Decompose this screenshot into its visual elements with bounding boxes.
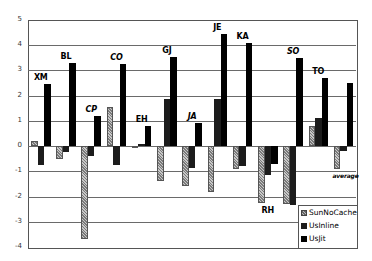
bar-usinline-co xyxy=(113,146,120,165)
y-tick-label: 0 xyxy=(6,141,22,149)
bar-usinline-so xyxy=(290,146,297,205)
y-tick-label: 1 xyxy=(6,116,22,124)
bar-usinline-bl xyxy=(63,146,70,152)
bar-usjit-xm xyxy=(44,84,51,146)
bar-usjit-cp xyxy=(94,116,101,146)
bar-sunnocache-je xyxy=(208,146,215,191)
y-tick-label: -1 xyxy=(6,166,22,174)
gridline xyxy=(28,70,356,71)
bar-usjit-gj xyxy=(170,57,177,147)
bar-sunnocache-co xyxy=(107,107,114,146)
bar-usjit-to xyxy=(322,78,329,146)
y-tick-label: -3 xyxy=(6,217,22,225)
swatch-usjit xyxy=(301,236,307,242)
legend-label: SunNoCache xyxy=(309,208,357,217)
legend-item-usjit: UsJit xyxy=(299,232,357,245)
legend-label: UsJit xyxy=(309,234,326,243)
bar-usjit-co xyxy=(120,64,127,146)
category-label-average: average xyxy=(333,172,359,179)
y-tick-label: 2 xyxy=(6,91,22,99)
gridline xyxy=(28,197,356,198)
category-label-to: TO xyxy=(312,67,324,76)
bar-usinline-xm xyxy=(38,146,45,165)
bar-usinline-average xyxy=(340,146,347,151)
category-label-xm: XM xyxy=(34,73,48,82)
category-label-rh: RH xyxy=(262,206,274,215)
bar-usjit-je xyxy=(221,34,228,146)
y-tick-label: -4 xyxy=(6,242,22,250)
bar-sunnocache-gj xyxy=(157,146,164,181)
gridline xyxy=(28,171,356,172)
category-label-bl: BL xyxy=(61,52,72,61)
bar-sunnocache-eh xyxy=(132,146,139,148)
bar-sunnocache-cp xyxy=(81,146,88,239)
legend-item-sunnocache: SunNoCache xyxy=(299,206,357,219)
bar-usinline-ja xyxy=(189,146,196,167)
bar-usjit-ja xyxy=(195,123,202,146)
y-tick-label: 5 xyxy=(6,15,22,23)
bar-usjit-bl xyxy=(69,63,76,146)
category-label-eh: EH xyxy=(136,115,148,124)
bar-chart: 543210-1-2-3-4 XMBLCPCOEHGJJAJEKARHSOTOa… xyxy=(0,0,372,261)
bar-usjit-so xyxy=(296,58,303,146)
gridline xyxy=(28,45,356,46)
category-label-cp: CP xyxy=(86,105,97,114)
bar-usjit-eh xyxy=(145,126,152,146)
legend-item-usinline: UsInline xyxy=(299,219,357,232)
bar-usjit-ka xyxy=(246,43,253,146)
bar-usinline-ka xyxy=(239,146,246,166)
swatch-sunnocache xyxy=(301,210,307,216)
bar-usjit-rh xyxy=(271,146,278,164)
legend: SunNoCache UsInline UsJit xyxy=(298,205,358,249)
legend-label: UsInline xyxy=(309,221,339,230)
category-label-je: JE xyxy=(213,23,221,32)
category-label-gj: GJ xyxy=(162,46,171,55)
category-label-co: CO xyxy=(110,53,122,62)
y-tick-label: 3 xyxy=(6,65,22,73)
category-label-ka: KA xyxy=(237,32,249,41)
y-tick-label: -2 xyxy=(6,192,22,200)
bar-usjit-average xyxy=(347,83,354,146)
bar-usinline-cp xyxy=(88,146,95,156)
y-tick-label: 4 xyxy=(6,40,22,48)
swatch-usinline xyxy=(301,223,307,229)
gridline xyxy=(28,96,356,97)
category-label-so: SO xyxy=(287,47,299,56)
category-label-ja: JA xyxy=(188,112,197,121)
